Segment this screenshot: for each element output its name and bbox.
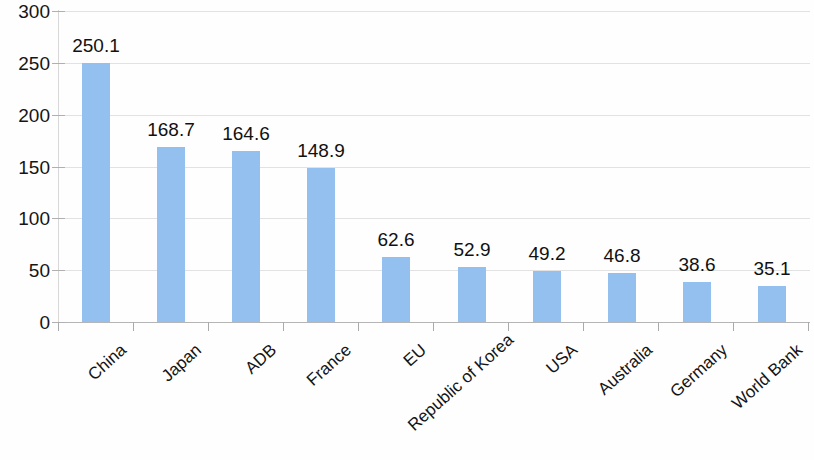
value-label-germany: 38.6 [679, 255, 716, 274]
bar-germany[interactable] [683, 282, 711, 322]
x-tick-mark-9 [733, 322, 734, 331]
x-axis-category-labels: China Japan ADB France EU Republic of Ko… [0, 331, 814, 460]
bar-china[interactable] [82, 63, 110, 322]
bar-eu[interactable] [382, 257, 410, 322]
bar-australia[interactable] [608, 273, 636, 322]
bar-usa[interactable] [533, 271, 561, 322]
x-tick-mark-5 [433, 322, 434, 331]
value-label-usa: 49.2 [529, 244, 566, 263]
value-label-china: 250.1 [72, 36, 120, 55]
value-label-australia: 46.8 [604, 246, 641, 265]
x-tick-mark-4 [358, 322, 359, 331]
x-tick-mark-3 [283, 322, 284, 331]
x-tick-mark-8 [658, 322, 659, 331]
value-label-world-bank: 35.1 [754, 259, 791, 278]
x-tick-mark-6 [508, 322, 509, 331]
x-tick-mark-7 [583, 322, 584, 331]
x-tick-mark-10 [808, 322, 809, 331]
x-axis-line [58, 322, 810, 323]
bar-world-bank[interactable] [758, 286, 786, 322]
bar-japan[interactable] [157, 147, 185, 322]
value-label-republic-of-korea: 52.9 [454, 240, 491, 259]
bar-chart: 300 250 200 150 100 50 0 250.1 16 [0, 0, 814, 460]
value-label-eu: 62.6 [378, 230, 415, 249]
x-tick-mark-2 [208, 322, 209, 331]
bar-adb[interactable] [232, 151, 260, 322]
value-label-france: 148.9 [297, 141, 345, 160]
x-tick-mark-0 [58, 322, 59, 331]
value-label-japan: 168.7 [147, 120, 195, 139]
value-label-adb: 164.6 [222, 124, 270, 143]
x-tick-mark-1 [133, 322, 134, 331]
bar-france[interactable] [307, 168, 335, 322]
bar-republic-of-korea[interactable] [458, 267, 486, 322]
